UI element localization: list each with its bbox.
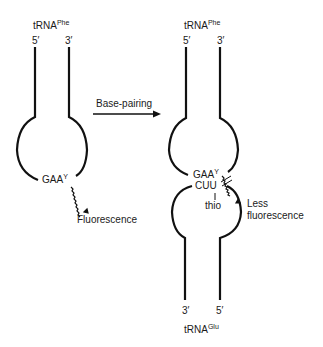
right-bottom-trna-title: tRNAGlu — [184, 324, 219, 337]
less-fluorescence-line2: fluorescence — [247, 210, 304, 222]
right-bottom-trna-5prime: 5′ — [216, 305, 223, 317]
base-pairing-label: Base-pairing — [96, 98, 152, 110]
base-pairing-arrow — [93, 111, 161, 118]
right-top-trna-5prime: 5′ — [183, 35, 190, 47]
left-anticodon: GAAY — [42, 174, 68, 187]
right-bottom-anticodon: CUU — [195, 180, 217, 192]
left-trna-stem-loop — [17, 47, 87, 180]
right-top-trna-stem-loop — [169, 47, 238, 175]
right-bottom-trna-3prime: 3′ — [182, 305, 189, 317]
right-top-trna-title: tRNAPhe — [184, 20, 220, 33]
right-top-trna-3prime: 3′ — [217, 35, 224, 47]
fluorescence-label: Fluorescence — [77, 214, 137, 226]
left-trna-title: tRNAPhe — [33, 20, 69, 33]
thio-label: thio — [205, 200, 221, 212]
left-fluorescence-arrow — [71, 187, 88, 217]
left-trna-3prime: 3′ — [65, 35, 72, 47]
less-fluorescence-line1: Less — [247, 198, 268, 210]
left-trna-5prime: 5′ — [32, 35, 39, 47]
quench-mark — [221, 176, 232, 186]
